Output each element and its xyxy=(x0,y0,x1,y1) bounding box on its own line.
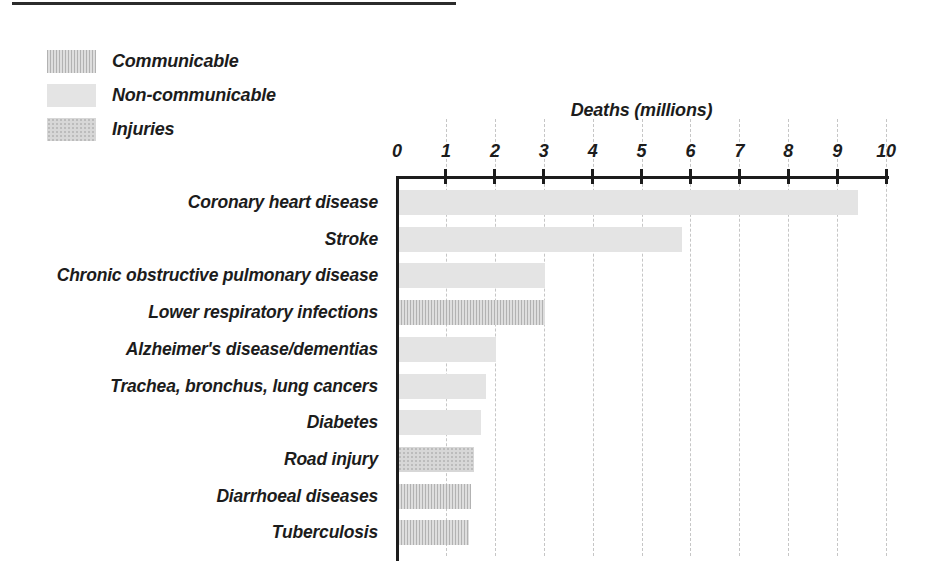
category-label: Stroke xyxy=(0,229,378,250)
x-tick-label: 1 xyxy=(426,141,466,161)
gridline xyxy=(886,119,887,556)
gridline xyxy=(837,119,838,556)
category-label: Chronic obstructive pulmonary disease xyxy=(0,265,378,286)
x-tick-label: 8 xyxy=(768,141,808,161)
category-label: Diarrhoeal diseases xyxy=(0,486,378,507)
bar xyxy=(398,520,469,545)
x-tick-label: 6 xyxy=(670,141,710,161)
y-axis-spine xyxy=(396,176,399,561)
legend-swatch-noncommunicable xyxy=(47,84,96,107)
gridline xyxy=(788,119,789,556)
bar xyxy=(398,263,545,288)
x-tick-label: 7 xyxy=(719,141,759,161)
bar xyxy=(398,447,474,472)
x-tick-label: 2 xyxy=(475,141,515,161)
bar xyxy=(398,484,471,509)
bar xyxy=(398,374,486,399)
legend-label-communicable: Communicable xyxy=(112,50,372,73)
category-label: Trachea, bronchus, lung cancers xyxy=(0,376,378,397)
x-tick-label: 5 xyxy=(622,141,662,161)
bar xyxy=(398,300,545,325)
x-tick-label: 10 xyxy=(866,141,906,161)
gridline xyxy=(544,119,545,556)
bar xyxy=(398,190,858,215)
gridline xyxy=(690,119,691,556)
category-label: Diabetes xyxy=(0,412,378,433)
category-label: Tuberculosis xyxy=(0,522,378,543)
x-axis-title: Deaths (millions) xyxy=(397,100,886,121)
category-label: Alzheimer's disease/dementias xyxy=(0,339,378,360)
bar xyxy=(398,337,496,362)
category-label: Lower respiratory infections xyxy=(0,302,378,323)
category-label: Coronary heart disease xyxy=(0,192,378,213)
x-tick-label: 4 xyxy=(573,141,613,161)
x-tick-label: 9 xyxy=(817,141,857,161)
figure: Communicable Non-communicable Injuries D… xyxy=(0,0,931,572)
legend-label-injuries: Injuries xyxy=(112,118,372,141)
bar xyxy=(398,227,682,252)
legend-swatch-communicable xyxy=(47,50,96,73)
x-tick-label: 0 xyxy=(377,141,417,161)
bar xyxy=(398,410,481,435)
category-label: Road injury xyxy=(0,449,378,470)
legend-swatch-injuries xyxy=(47,118,96,141)
legend-label-noncommunicable: Non-communicable xyxy=(112,84,372,107)
gridline xyxy=(642,119,643,556)
gridline xyxy=(739,119,740,556)
gridline xyxy=(593,119,594,556)
x-tick-label: 3 xyxy=(524,141,564,161)
title-underline xyxy=(12,2,456,5)
x-axis-line xyxy=(396,176,889,179)
